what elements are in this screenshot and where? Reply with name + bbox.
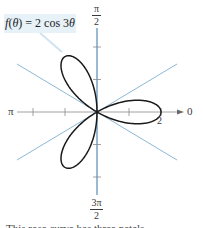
equation-var: θ	[69, 16, 75, 31]
equation-arg: θ	[12, 16, 18, 31]
figure-caption: This rose curve has three petals.	[6, 222, 147, 228]
axis-label-right: 0	[187, 106, 193, 117]
axis-label-top-den: 2	[94, 17, 99, 27]
label-pointer	[40, 33, 62, 52]
axis-label-bottom: 3π 2	[90, 198, 103, 221]
axis-label-bottom-num: 3π	[91, 198, 101, 208]
equation-rhs: = 2 cos 3	[25, 16, 69, 31]
axis-label-top: π 2	[92, 4, 101, 27]
axis-label-bottom-den: 2	[94, 211, 99, 221]
equation-label: f(θ) = 2 cos 3θ	[4, 14, 76, 33]
arrow-right-icon	[177, 110, 184, 115]
axis-label-top-num: π	[94, 4, 99, 14]
r-tick-label: 2	[157, 116, 162, 126]
polar-plot	[0, 0, 203, 228]
equation-fn: f	[5, 16, 8, 31]
axis-label-left: π	[8, 106, 14, 117]
